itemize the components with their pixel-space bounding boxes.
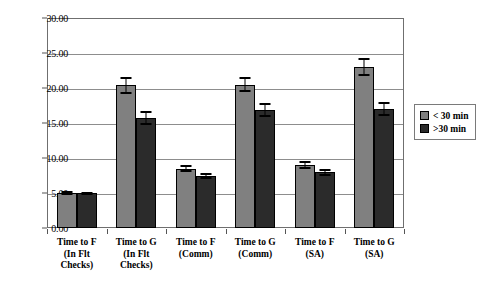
error-bar-cap-top xyxy=(240,77,251,79)
x-axis-tick-mark xyxy=(404,229,405,234)
error-bar-cap-bottom xyxy=(141,123,152,125)
x-axis-tick-mark xyxy=(345,229,346,234)
bar xyxy=(255,110,275,228)
error-bar-cap-top xyxy=(359,58,370,60)
error-bar-cap-bottom xyxy=(81,193,92,195)
x-axis-category-label: Time to G (In Flt Checks) xyxy=(107,237,167,272)
error-bar-cap-bottom xyxy=(260,115,271,117)
bar xyxy=(295,165,315,228)
error-bar-cap-top xyxy=(299,161,310,163)
bar xyxy=(315,172,335,228)
x-axis-tick-mark xyxy=(285,229,286,234)
x-axis-category-label: Time to F (SA) xyxy=(285,237,345,260)
x-axis-tick-mark xyxy=(107,229,108,234)
error-bar-cap-bottom xyxy=(299,167,310,169)
bar xyxy=(196,176,216,228)
error-bar-cap-top xyxy=(180,165,191,167)
bar xyxy=(235,85,255,229)
error-bar-cap-top xyxy=(260,103,271,105)
error-bar-cap-top xyxy=(121,77,132,79)
bar xyxy=(374,109,394,228)
x-axis-category-label: Time to G (SA) xyxy=(345,237,405,260)
error-bar-cap-top xyxy=(141,111,152,113)
error-bar-cap-bottom xyxy=(240,90,251,92)
x-axis-category-label: Time to F (Comm) xyxy=(166,237,226,260)
error-bar-cap-top xyxy=(319,169,330,171)
error-bar-cap-bottom xyxy=(180,170,191,172)
bar xyxy=(57,193,77,228)
bar xyxy=(176,169,196,229)
x-axis-tick-mark xyxy=(47,229,48,234)
error-bar-cap-top xyxy=(200,173,211,175)
x-axis-category-label: Time to F (In Flt Checks) xyxy=(47,237,107,272)
bars-layer xyxy=(47,18,404,228)
x-axis-tick-mark xyxy=(226,229,227,234)
chart-legend: < 30 min>30 min xyxy=(414,104,476,140)
bar xyxy=(136,118,156,228)
error-bar-cap-bottom xyxy=(121,92,132,94)
error-bar-cap-bottom xyxy=(200,177,211,179)
error-bar-cap-bottom xyxy=(319,174,330,176)
error-bar-cap-bottom xyxy=(379,114,390,116)
error-bar-cap-top xyxy=(379,102,390,104)
legend-swatch-icon xyxy=(420,111,429,120)
legend-item: >30 min xyxy=(420,122,469,135)
error-bar-cap-bottom xyxy=(61,193,72,195)
bar xyxy=(354,67,374,228)
x-axis-category-label: Time to G (Comm) xyxy=(226,237,286,260)
error-bar-cap-bottom xyxy=(359,74,370,76)
legend-label: >30 min xyxy=(433,124,466,134)
bar-chart: 0.005.0010.0015.0020.0025.0030.00 Time t… xyxy=(0,0,482,289)
legend-label: < 30 min xyxy=(433,111,469,121)
legend-item: < 30 min xyxy=(420,109,469,122)
bar xyxy=(116,85,136,228)
bar xyxy=(77,193,97,228)
x-axis-tick-mark xyxy=(166,229,167,234)
legend-swatch-icon xyxy=(420,124,429,133)
